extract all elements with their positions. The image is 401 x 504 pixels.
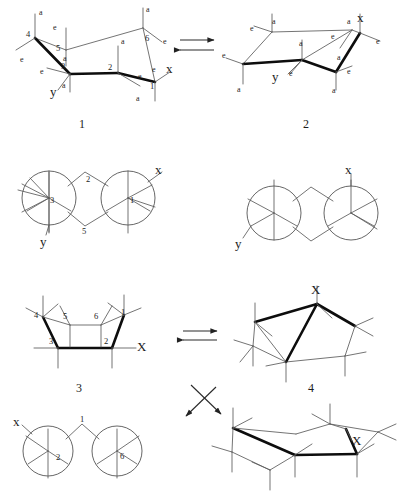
ring-position-3: 3 — [50, 196, 54, 205]
caption-structure-3: 3 — [76, 382, 82, 394]
substituent-label-e: e — [347, 68, 351, 76]
ring-position-5: 5 — [82, 227, 86, 236]
group-label-X: X — [137, 340, 146, 353]
group-label-y: y — [40, 235, 47, 248]
substituent-label-a: a — [347, 18, 351, 26]
ring-position-5: 5 — [63, 312, 67, 321]
group-label-x: x — [13, 415, 20, 428]
ring-position-1: 1 — [150, 82, 154, 91]
substituent-label-a: a — [337, 54, 341, 62]
newman-projection-2 — [243, 174, 378, 241]
substituent-label-e: e — [20, 56, 24, 64]
substituent-label-e: e — [331, 33, 335, 41]
group-label-x: x — [166, 62, 173, 75]
ring-position-2: 2 — [104, 337, 108, 346]
group-label-x: x — [357, 11, 364, 24]
substituent-label-e: e — [250, 25, 254, 33]
substituent-label-a: a — [146, 6, 150, 14]
ring-position-2: 2 — [86, 175, 90, 184]
caption-structure-4: 4 — [308, 382, 314, 394]
group-label-y: y — [272, 70, 279, 83]
structure-3-boat — [26, 295, 141, 368]
substituent-label-e: e — [163, 38, 167, 46]
ring-position-1: 1 — [80, 415, 84, 424]
structure-5-twist-boat — [212, 404, 396, 490]
chemical-structures-drawing: .t{stroke:#5b5b5b;stroke-width:0.85;fill… — [0, 0, 401, 504]
figure-canvas: .t{stroke:#5b5b5b;stroke-width:0.85;fill… — [0, 0, 401, 504]
substituent-label-a: a — [237, 86, 241, 94]
substituent-label-e: e — [222, 52, 226, 60]
ring-position-6: 6 — [94, 312, 98, 321]
ring-position-3: 3 — [61, 62, 65, 71]
structure-4-twist-boat — [234, 286, 373, 382]
ring-position-2: 2 — [56, 453, 60, 462]
substituent-label-a: a — [332, 87, 336, 95]
substituent-label-e: e — [40, 68, 44, 76]
caption-structure-1: 1 — [79, 118, 85, 130]
substituent-label-a: a — [121, 38, 125, 46]
substituent-label-e: e — [376, 38, 380, 46]
structure-1-chair — [16, 8, 170, 101]
ring-position-4: 4 — [26, 30, 30, 39]
group-label-X: X — [311, 283, 320, 296]
ring-position-4: 4 — [34, 311, 38, 320]
substituent-label-e: e — [53, 24, 57, 32]
equilibrium-arrow-top — [180, 40, 214, 50]
caption-structure-2: 2 — [303, 118, 309, 130]
ring-position-6: 6 — [145, 34, 149, 43]
ring-position-1: 1 — [130, 196, 134, 205]
equilibrium-arrow-diagonal — [186, 385, 221, 416]
group-label-x: x — [155, 163, 162, 176]
ring-position-2: 2 — [108, 63, 112, 72]
ring-position-1: 1 — [121, 308, 125, 317]
group-label-X: X — [352, 434, 361, 447]
newman-projection-3 — [22, 424, 142, 478]
group-label-y: y — [235, 237, 242, 250]
group-label-y: y — [50, 85, 57, 98]
substituent-label-e: e — [289, 70, 293, 78]
substituent-label-e: e — [138, 73, 142, 81]
equilibrium-arrow-middle — [183, 331, 217, 340]
ring-position-5: 5 — [56, 44, 60, 53]
substituent-label-a: a — [39, 9, 43, 17]
substituent-label-a: a — [136, 95, 140, 103]
substituent-label-e: e — [152, 66, 156, 74]
ring-position-6: 6 — [120, 452, 124, 461]
group-label-x: x — [345, 163, 352, 176]
substituent-label-a: a — [299, 40, 303, 48]
ring-position-3: 3 — [49, 337, 53, 346]
substituent-label-a: a — [62, 82, 66, 90]
substituent-label-a: a — [272, 18, 276, 26]
